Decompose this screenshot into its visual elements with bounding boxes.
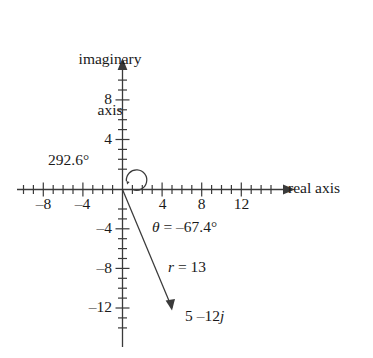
- x-tick-label-12: 12: [231, 196, 252, 213]
- magnitude-annotation: r = 13: [168, 259, 206, 276]
- angle-arc: [126, 170, 146, 190]
- real-axis-label: real axis: [288, 180, 340, 197]
- angle-arc-label: 292.6°: [48, 152, 89, 169]
- x-tick-label-8: 8: [195, 196, 208, 213]
- theta-value: = –67.4°: [160, 218, 218, 235]
- theta-annotation: θ = –67.4°: [152, 219, 217, 236]
- x-tick-label--4: –4: [72, 196, 93, 213]
- y-tick-label--12: –12: [75, 299, 112, 316]
- r-value: = 13: [174, 258, 206, 275]
- imaginary-axis-label-line1: imaginary: [62, 51, 158, 68]
- x-tick-label-4: 4: [156, 196, 169, 213]
- phasor-point-label: 5 –12j: [185, 308, 224, 325]
- phasor-point-real: 5 –12: [185, 307, 220, 324]
- angle-arc-arrowhead: [126, 181, 129, 185]
- phasor-vector-arrowhead: [166, 299, 175, 311]
- complex-plane-figure: imaginary axis real axis 292.6° θ = –67.…: [0, 0, 373, 358]
- phasor-point-imaginary-unit: j: [220, 307, 224, 324]
- y-tick-label--8: –8: [84, 260, 112, 277]
- y-tick-label-8: 8: [92, 91, 112, 108]
- theta-symbol: θ: [152, 218, 160, 235]
- x-tick-label--8: –8: [33, 196, 54, 213]
- y-tick-label--4: –4: [84, 220, 112, 237]
- y-tick-label-4: 4: [92, 131, 112, 148]
